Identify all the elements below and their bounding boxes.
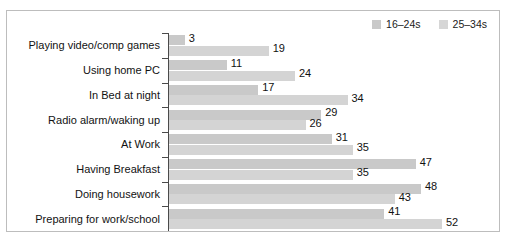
- bar[interactable]: [169, 60, 227, 70]
- bar-value-label: 17: [258, 81, 274, 93]
- category-group: Radio alarm/waking up2926: [7, 107, 501, 132]
- legend-swatch-icon-0: [372, 20, 381, 29]
- legend-item-1[interactable]: 25–34s: [439, 19, 487, 30]
- bar-value-label: 24: [295, 67, 311, 79]
- bar-value-label: 48: [421, 180, 437, 192]
- category-group: Using home PC1124: [7, 58, 501, 83]
- bar[interactable]: [169, 184, 421, 194]
- bar[interactable]: [169, 46, 269, 56]
- bar-value-label: 3: [185, 32, 195, 44]
- category-label: Radio alarm/waking up: [48, 107, 165, 132]
- bar-group: 4735: [169, 157, 501, 182]
- category-group: Playing video/comp games319: [7, 33, 501, 58]
- category-label: In Bed at night: [89, 83, 165, 108]
- bar-group: 2926: [169, 107, 501, 132]
- category-group: Having Breakfast4735: [7, 157, 501, 182]
- bar[interactable]: [169, 159, 416, 169]
- bar-value-label: 47: [416, 156, 432, 168]
- category-label: Using home PC: [83, 58, 165, 83]
- bar-value-label: 43: [395, 191, 411, 203]
- bar-group: 1124: [169, 58, 501, 83]
- bar-value-label: 41: [384, 205, 400, 217]
- bar-value-label: 19: [269, 42, 285, 54]
- legend-item-0[interactable]: 16–24s: [372, 19, 420, 30]
- bar-group: 4152: [169, 206, 501, 231]
- chart-legend: 16–24s 25–34s: [372, 16, 487, 32]
- category-group: In Bed at night1734: [7, 83, 501, 108]
- bar-value-label: 26: [306, 117, 322, 129]
- bar[interactable]: [169, 95, 348, 105]
- bar-value-label: 35: [353, 166, 369, 178]
- bar-value-label: 35: [353, 141, 369, 153]
- bar-value-label: 11: [227, 57, 242, 69]
- bar-group: 1734: [169, 83, 501, 108]
- category-group: Preparing for work/school4152: [7, 206, 501, 231]
- bar-chart: 16–24s 25–34s Playing video/comp games31…: [0, 0, 515, 242]
- plot-area: Playing video/comp games319Using home PC…: [7, 33, 501, 231]
- legend-label-0: 16–24s: [386, 19, 420, 30]
- bar-value-label: 31: [332, 131, 348, 143]
- bar[interactable]: [169, 194, 395, 204]
- category-label: Playing video/comp games: [29, 33, 165, 58]
- bar-group: 3135: [169, 132, 501, 157]
- bar[interactable]: [169, 145, 353, 155]
- category-label: Doing housework: [75, 182, 165, 207]
- category-label: At Work: [121, 132, 165, 157]
- bar-value-label: 34: [348, 92, 364, 104]
- legend-label-1: 25–34s: [453, 19, 487, 30]
- category-label: Having Breakfast: [76, 157, 165, 182]
- bar-group: 319: [169, 33, 501, 58]
- bar[interactable]: [169, 134, 332, 144]
- category-label: Preparing for work/school: [35, 206, 165, 231]
- bar[interactable]: [169, 209, 384, 219]
- bar[interactable]: [169, 219, 442, 229]
- bar[interactable]: [169, 85, 258, 95]
- chart-frame: 16–24s 25–34s Playing video/comp games31…: [6, 10, 500, 232]
- category-group: Doing housework4843: [7, 182, 501, 207]
- bar[interactable]: [169, 35, 185, 45]
- legend-swatch-icon-1: [439, 20, 448, 29]
- bar[interactable]: [169, 71, 295, 81]
- bar[interactable]: [169, 170, 353, 180]
- bar-value-label: 29: [321, 106, 337, 118]
- bar[interactable]: [169, 110, 321, 120]
- bar-group: 4843: [169, 182, 501, 207]
- bar-value-label: 52: [442, 216, 458, 228]
- category-group: At Work3135: [7, 132, 501, 157]
- bar[interactable]: [169, 120, 306, 130]
